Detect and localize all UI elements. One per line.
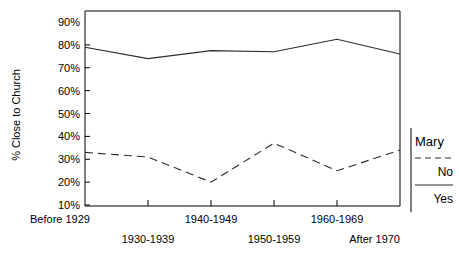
data-series-group [85, 39, 400, 182]
chart-container: % Close to Church 90%80%70%60%50%40%30%2… [0, 0, 459, 268]
y-tick-label: 50% [58, 108, 80, 120]
legend-label-yes: Yes [433, 192, 453, 206]
y-tick-label: 80% [58, 39, 80, 51]
series-line-yes [85, 39, 400, 58]
plot-frame [85, 11, 400, 206]
y-axis-title: % Close to Church [10, 69, 22, 161]
y-axis-title-text: % Close to Church [10, 69, 22, 161]
legend-title: Mary [415, 134, 444, 149]
y-tick-label: 30% [58, 153, 80, 165]
x-category-label: Before 1929 [30, 213, 90, 225]
y-tick-label: 10% [58, 199, 80, 211]
series-line-no [85, 143, 400, 182]
chart-legend: Mary No Yes [411, 128, 453, 212]
x-category-label: 1930-1939 [122, 233, 175, 245]
y-tick-label: 20% [58, 176, 80, 188]
x-axis-ticks [148, 200, 337, 206]
line-chart: % Close to Church 90%80%70%60%50%40%30%2… [0, 0, 459, 268]
x-category-label: After 1970 [349, 233, 400, 245]
legend-label-no: No [438, 165, 454, 179]
y-tick-label: 90% [58, 16, 80, 28]
y-tick-label: 60% [58, 85, 80, 97]
x-category-label: 1940-1949 [185, 213, 238, 225]
x-category-label: 1950-1959 [248, 233, 301, 245]
x-axis-category-labels: Before 19291930-19391940-19491950-195919… [30, 213, 400, 245]
y-tick-label: 40% [58, 130, 80, 142]
y-tick-label: 70% [58, 62, 80, 74]
x-category-label: 1960-1969 [311, 213, 364, 225]
